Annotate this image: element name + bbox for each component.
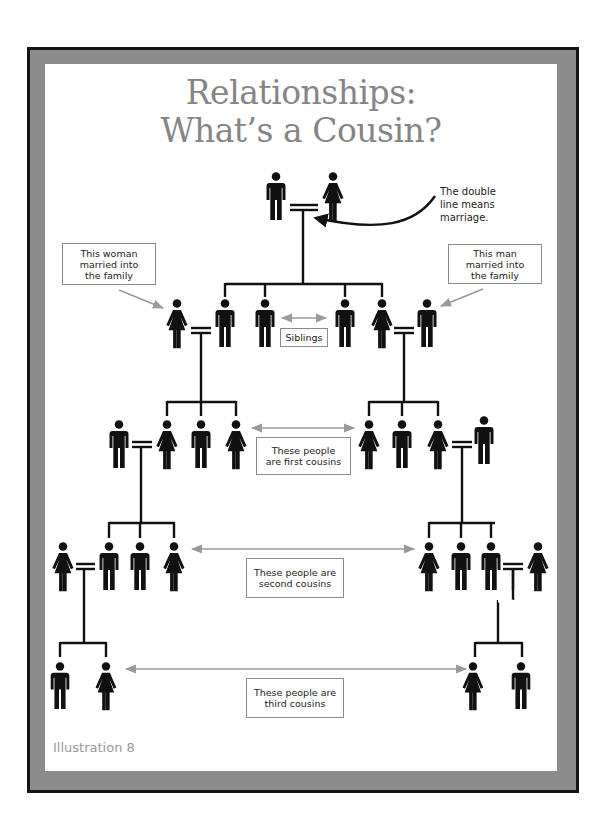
man-icon [482,542,501,590]
man-icon [512,662,531,709]
second-cousins-label: These people are second cousins [246,558,344,598]
man-icon [100,542,119,590]
third-cousins-label: These people are third cousins [246,678,344,718]
woman-icon [371,299,392,348]
man-icon [192,420,211,468]
man-icon [267,172,286,220]
siblings-label: Siblings [280,328,328,347]
man-icon [393,420,412,468]
man-icon [336,299,355,347]
first-cousins-label: These people are first cousins [256,437,351,475]
woman-icon [225,420,246,469]
woman-icon [527,542,548,591]
woman-icon [358,420,379,469]
man-icon [216,299,235,347]
woman-married-in-arrow [119,290,163,308]
man-icon [475,416,494,464]
woman-married-in-label: This woman married into the family [62,243,156,285]
woman-icon [156,420,177,469]
woman-icon [163,542,184,591]
woman-icon [427,420,448,469]
woman-icon [166,299,187,348]
double-line-note: The double line means marriage. [440,185,496,224]
woman-icon [52,542,73,591]
man-icon [131,542,150,590]
man-icon [452,542,471,590]
man-icon [51,662,70,709]
woman-icon [322,172,343,221]
man-married-in-arrow [441,289,483,306]
man-married-in-label: This man married into the family [448,244,542,284]
illustration-caption: Illustration 8 [53,740,135,755]
man-icon [256,299,275,347]
woman-icon [96,662,117,710]
man-icon [110,420,129,468]
man-icon [418,299,437,347]
woman-icon [418,542,439,591]
